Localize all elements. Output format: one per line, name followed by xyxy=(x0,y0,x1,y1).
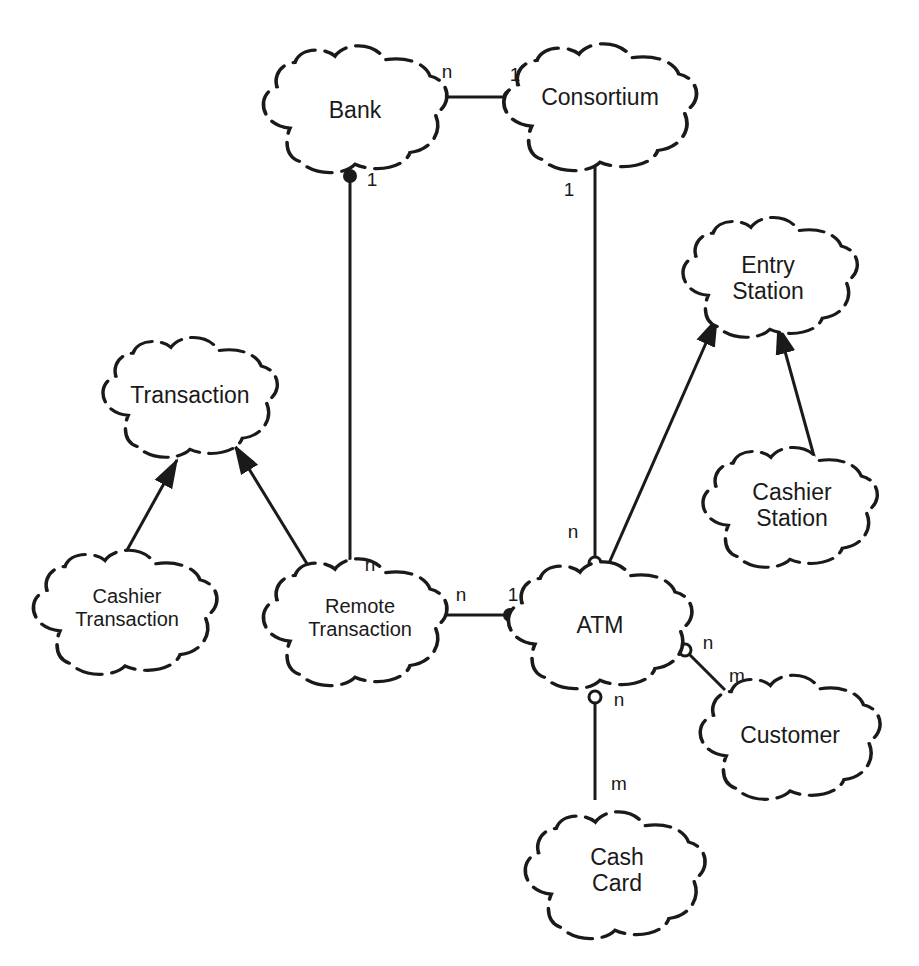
class-label-bank: Bank xyxy=(329,97,381,123)
multiplicity-label: m xyxy=(729,665,745,687)
edge-atm-entry-station xyxy=(606,318,717,570)
class-label-line: Station xyxy=(732,278,804,304)
edge-cashier-transaction-transaction xyxy=(126,460,177,552)
multiplicity-label: n xyxy=(365,554,376,576)
class-label-line: Cashier xyxy=(75,585,179,608)
class-label-remote-transaction: Remote Transaction xyxy=(308,595,412,641)
class-label-line: Cashier xyxy=(752,479,831,505)
edge-atm-customer xyxy=(688,653,725,690)
class-label-line: Transaction xyxy=(75,608,179,631)
multiplicity-label: 1 xyxy=(367,169,378,191)
multiplicity-label: n xyxy=(614,689,625,711)
edge-remote-transaction-transaction xyxy=(235,446,309,567)
multiplicity-label: n xyxy=(442,61,453,83)
multiplicity-label: 1 xyxy=(510,64,521,86)
multiplicity-label: m xyxy=(611,773,627,795)
class-label-line: Transaction xyxy=(308,618,412,641)
class-label-consortium: Consortium xyxy=(541,84,659,110)
class-label-line: Station xyxy=(752,505,831,531)
class-label-transaction: Transaction xyxy=(130,382,249,408)
multiplicity-label: n xyxy=(456,584,467,606)
class-label-line: Cash xyxy=(590,844,644,870)
class-label-cashier-transaction: Cashier Transaction xyxy=(75,585,179,631)
class-label-atm: ATM xyxy=(577,612,624,638)
edge-cashier-station-entry-station xyxy=(778,326,817,467)
class-label-line: Remote xyxy=(308,595,412,618)
class-label-line: Entry xyxy=(732,252,804,278)
class-label-line: Card xyxy=(590,870,644,896)
class-label-cash-card: Cash Card xyxy=(590,844,644,897)
class-label-customer: Customer xyxy=(740,722,840,748)
class-label-cashier-station: Cashier Station xyxy=(752,479,831,532)
multiplicity-label: n xyxy=(703,632,714,654)
multiplicity-label: 1 xyxy=(508,584,519,606)
multiplicity-label: 1 xyxy=(564,179,575,201)
class-label-entry-station: Entry Station xyxy=(732,252,804,305)
multiplicity-label: n xyxy=(568,521,579,543)
open-circle-adornment xyxy=(589,691,601,703)
